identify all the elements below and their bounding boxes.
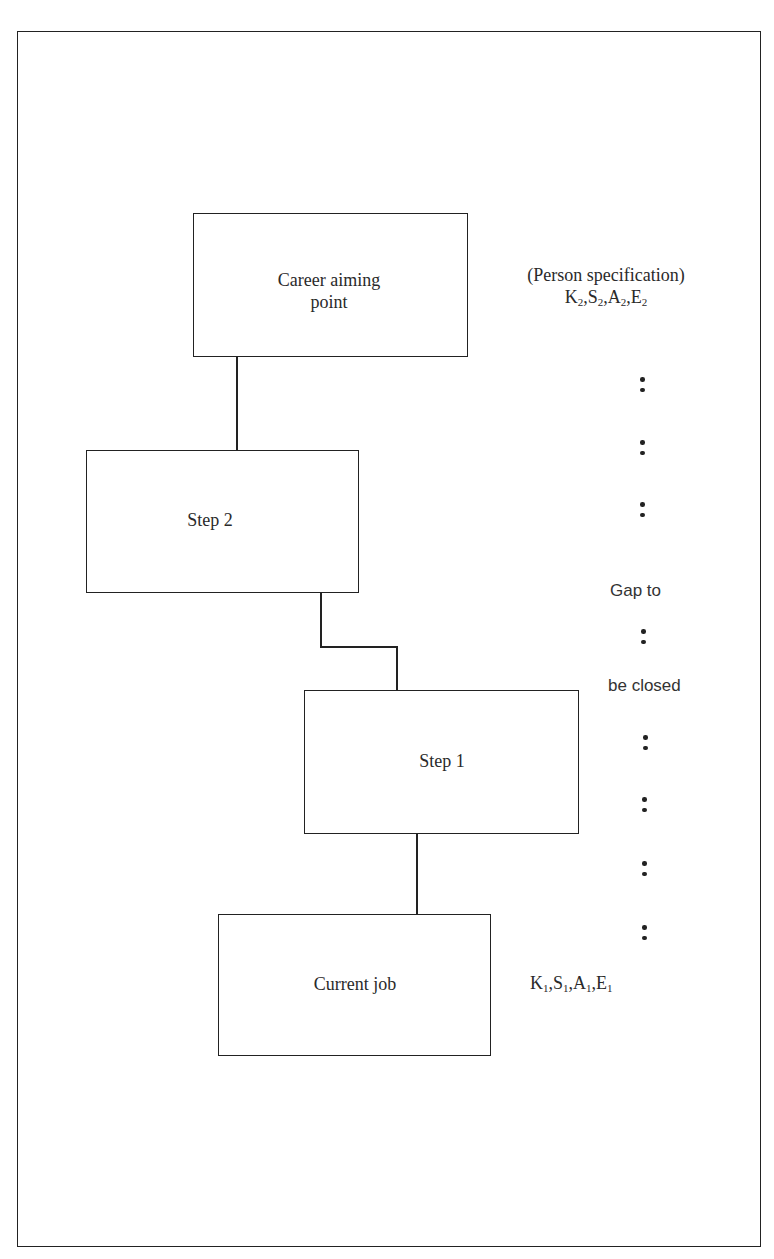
colon-dots-5 [643, 735, 649, 756]
connector-aiming-to-step2 [236, 356, 238, 451]
connector-step2-to-step1-across [320, 646, 398, 648]
career-aiming-point-box: Career aiming point [193, 213, 468, 357]
attr-a2: A2 [608, 287, 627, 307]
current-attributes: K1,S1,A1,E1 [530, 972, 613, 999]
connector-step2-to-step1-down [320, 592, 322, 648]
attr-e2: E2 [631, 287, 648, 307]
current-job-box: Current job [218, 914, 491, 1056]
attr-k2: K2 [565, 287, 584, 307]
current-job-label: Current job [285, 973, 425, 995]
colon-dots-2 [640, 440, 646, 461]
gap-label-line1: Gap to [610, 581, 661, 601]
step-1-label: Step 1 [387, 750, 497, 772]
attr-s1: S1 [553, 973, 569, 993]
attr-e1: E1 [596, 973, 613, 993]
connector-step2-to-step1-down2 [396, 646, 398, 691]
person-specification-label: (Person specification) [486, 264, 726, 286]
attr-k1: K1 [530, 973, 549, 993]
colon-dots-4 [641, 629, 647, 650]
step-2-box: Step 2 [86, 450, 359, 593]
colon-dots-1 [640, 377, 646, 398]
attr-s2: S2 [588, 287, 604, 307]
attr-a1: A1 [573, 973, 592, 993]
step-2-label: Step 2 [155, 509, 265, 531]
colon-dots-6 [642, 797, 648, 818]
career-aiming-point-label: Career aiming point [254, 269, 404, 313]
connector-step1-to-current [416, 833, 418, 915]
step-1-box: Step 1 [304, 690, 579, 834]
target-attributes: K2,S2,A2,E2 [486, 286, 726, 313]
colon-dots-3 [640, 502, 646, 523]
colon-dots-8 [642, 925, 648, 946]
gap-label-line2: be closed [608, 676, 681, 696]
colon-dots-7 [642, 861, 648, 882]
